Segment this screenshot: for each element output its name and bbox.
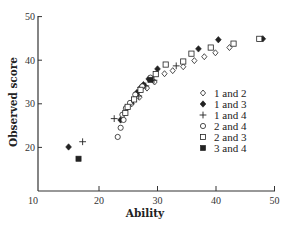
data-point	[138, 87, 143, 92]
series-2-and-4	[115, 75, 153, 139]
y-tick-label: 20	[25, 142, 35, 153]
data-point	[192, 58, 197, 64]
data-point	[196, 46, 202, 52]
x-axis-title: Ability	[125, 207, 165, 219]
data-point	[162, 71, 167, 77]
open-diamond-icon	[200, 90, 205, 96]
data-point	[181, 59, 186, 64]
x-ticks: 1020304050	[28, 186, 280, 206]
y-axis-title: Observed score	[7, 57, 19, 147]
data-point	[115, 134, 120, 139]
y-tick-label: 50	[25, 11, 35, 22]
data-point	[208, 45, 213, 50]
data-point	[125, 104, 130, 109]
x-tick-label: 50	[270, 195, 280, 206]
x-tick-label: 10	[28, 195, 38, 206]
data-point	[257, 36, 262, 41]
x-tick-label: 20	[94, 195, 104, 206]
x-tick-label: 40	[211, 195, 221, 206]
data-point	[173, 62, 180, 69]
open-square-icon	[200, 134, 205, 139]
x-tick-label: 30	[153, 195, 163, 206]
data-point	[153, 72, 158, 77]
data-point	[123, 110, 128, 115]
y-tick-label: 40	[25, 55, 35, 66]
data-point	[121, 117, 126, 122]
y-ticks: 20304050	[25, 11, 42, 153]
data-point	[66, 144, 72, 150]
data-point	[163, 62, 168, 67]
legend-label: 3 and 4	[214, 142, 247, 154]
data-point	[111, 115, 118, 122]
legend: 1 and 21 and 31 and 42 and 42 and 33 and…	[200, 87, 247, 154]
filled-square-icon	[200, 145, 205, 150]
legend-item: 3 and 4	[200, 142, 246, 154]
data-point	[118, 125, 123, 130]
data-point	[202, 54, 207, 60]
data-point	[76, 156, 81, 161]
data-point	[189, 51, 194, 56]
plus-icon	[200, 112, 207, 119]
y-tick-label: 30	[25, 98, 35, 109]
data-point	[213, 50, 218, 56]
data-point	[231, 41, 236, 46]
filled-diamond-icon	[200, 101, 206, 107]
data-point	[181, 64, 186, 70]
scatter-chart: 20304050 1020304050 Ability Observed sco…	[0, 0, 296, 227]
data-point	[79, 138, 86, 145]
data-point	[132, 97, 137, 102]
data-point	[148, 77, 153, 82]
open-circle-icon	[200, 123, 205, 128]
data-point	[170, 68, 175, 74]
data-point	[215, 37, 221, 43]
